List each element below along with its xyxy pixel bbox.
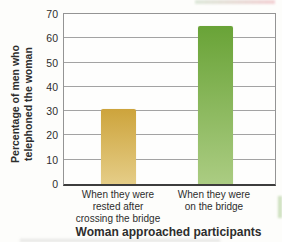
gridline-20 xyxy=(64,134,275,135)
bar-on-the-bridge xyxy=(198,26,233,184)
x-category-label-1: When they wererested aftercrossing the b… xyxy=(56,189,180,225)
gridline-10 xyxy=(64,159,275,160)
scan-edge-artifact-top xyxy=(195,0,275,4)
y-axis-title-line-1: Percentage of men who xyxy=(9,19,22,189)
x-category-label-line: When they were xyxy=(152,189,276,201)
gridline-30 xyxy=(64,110,275,111)
plot-area xyxy=(63,13,276,186)
bar-rested-after-crossing xyxy=(101,109,136,184)
x-category-label-2: When they wereon the bridge xyxy=(152,189,276,213)
bar-chart-figure: Percentage of men who telephoned the wom… xyxy=(0,0,282,242)
gridline-50 xyxy=(64,62,275,63)
y-axis-title: Percentage of men who telephoned the wom… xyxy=(9,19,34,189)
scan-edge-artifact-right xyxy=(278,196,282,218)
x-category-label-line: rested after xyxy=(56,201,180,213)
x-category-label-line: crossing the bridge xyxy=(56,213,180,225)
y-axis-title-line-2: telephoned the woman xyxy=(21,19,34,189)
x-category-label-line: on the bridge xyxy=(152,201,276,213)
gridline-40 xyxy=(64,86,275,87)
gridline-60 xyxy=(64,37,275,38)
x-axis-title: Woman approached participants xyxy=(62,225,275,239)
x-category-label-line: When they were xyxy=(56,189,180,201)
